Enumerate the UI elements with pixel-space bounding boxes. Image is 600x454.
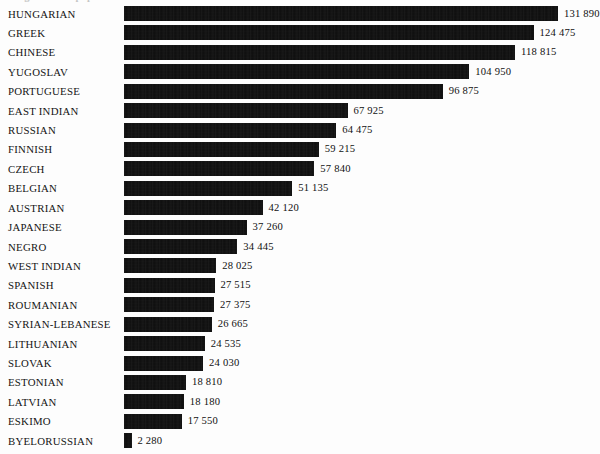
bar-fill — [124, 239, 237, 254]
bar-value-label: 57 840 — [320, 163, 350, 175]
bar-category-label: GREEK — [8, 27, 45, 39]
bar-value-label: 34 445 — [243, 241, 273, 253]
bar-row: LITHUANIAN24 535 — [0, 336, 600, 351]
bar-track — [124, 239, 594, 254]
bar-fill — [124, 200, 263, 215]
bar-value-label: 28 025 — [222, 260, 252, 272]
chart-title: Origins of the population — [8, 0, 126, 3]
bar-track — [124, 6, 594, 21]
bar-row: BYELORUSSIAN2 280 — [0, 433, 600, 448]
bar-track — [124, 84, 594, 99]
bar-track — [124, 258, 594, 273]
bar-value-label: 26 665 — [218, 318, 248, 330]
bar-category-label: SYRIAN-LEBANESE — [8, 318, 111, 330]
bar-row: BELGIAN51 135 — [0, 181, 600, 196]
bar-row: WEST INDIAN28 025 — [0, 258, 600, 273]
bar-value-label: 64 475 — [342, 124, 372, 136]
bar-fill — [124, 433, 132, 448]
bar-chart: Origins of the population HUNGARIAN131 8… — [0, 0, 600, 454]
bar-fill — [124, 123, 336, 138]
bar-row: ESTONIAN18 810 — [0, 375, 600, 390]
bar-row: SLOVAK24 030 — [0, 356, 600, 371]
bar-track — [124, 200, 594, 215]
bar-value-label: 17 550 — [188, 415, 218, 427]
bar-category-label: ESKIMO — [8, 415, 51, 427]
bar-row: SYRIAN-LEBANESE26 665 — [0, 317, 600, 332]
bar-value-label: 2 280 — [138, 435, 163, 447]
bar-value-label: 131 890 — [564, 8, 600, 20]
bar-value-label: 67 925 — [354, 105, 384, 117]
bar-row: GREEK124 475 — [0, 25, 600, 40]
bar-fill — [124, 181, 292, 196]
chart-plot-area: HUNGARIAN131 890GREEK124 475CHINESE118 8… — [0, 6, 600, 450]
bar-category-label: ROUMANIAN — [8, 299, 77, 311]
bar-row: ESKIMO17 550 — [0, 414, 600, 429]
bar-fill — [124, 45, 515, 60]
bar-value-label: 104 950 — [475, 66, 511, 78]
bar-category-label: NEGRO — [8, 241, 46, 253]
bar-fill — [124, 84, 443, 99]
bar-value-label: 18 810 — [192, 376, 222, 388]
bar-row: RUSSIAN64 475 — [0, 123, 600, 138]
bar-row: LATVIAN18 180 — [0, 394, 600, 409]
bar-track — [124, 142, 594, 157]
bar-value-label: 37 260 — [253, 221, 283, 233]
bar-track — [124, 317, 594, 332]
bar-category-label: RUSSIAN — [8, 124, 56, 136]
bar-category-label: SPANISH — [8, 279, 54, 291]
bar-fill — [124, 356, 203, 371]
bar-track — [124, 278, 594, 293]
bar-fill — [124, 414, 182, 429]
bar-fill — [124, 220, 247, 235]
bar-category-label: FINNISH — [8, 143, 52, 155]
bar-category-label: EAST INDIAN — [8, 105, 79, 117]
bar-row: JAPANESE37 260 — [0, 220, 600, 235]
bar-category-label: YUGOSLAV — [8, 66, 68, 78]
bar-value-label: 18 180 — [190, 396, 220, 408]
bar-fill — [124, 25, 534, 40]
bar-value-label: 124 475 — [540, 27, 576, 39]
bar-track — [124, 161, 594, 176]
bar-track — [124, 297, 594, 312]
bar-row: EAST INDIAN67 925 — [0, 103, 600, 118]
bar-track — [124, 433, 594, 448]
bar-track — [124, 336, 594, 351]
bar-category-label: SLOVAK — [8, 357, 52, 369]
bar-category-label: BYELORUSSIAN — [8, 435, 93, 447]
bar-fill — [124, 103, 348, 118]
bar-row: PORTUGUESE96 875 — [0, 84, 600, 99]
bar-category-label: AUSTRIAN — [8, 202, 65, 214]
bar-fill — [124, 297, 214, 312]
bar-fill — [124, 142, 319, 157]
bar-fill — [124, 375, 186, 390]
bar-track — [124, 181, 594, 196]
bar-fill — [124, 161, 314, 176]
bar-category-label: PORTUGUESE — [8, 85, 80, 97]
bar-value-label: 27 515 — [221, 279, 251, 291]
bar-row: CZECH57 840 — [0, 161, 600, 176]
bar-value-label: 27 375 — [220, 299, 250, 311]
bar-value-label: 96 875 — [449, 85, 479, 97]
bar-value-label: 118 815 — [521, 46, 556, 58]
bar-row: NEGRO34 445 — [0, 239, 600, 254]
bar-category-label: BELGIAN — [8, 182, 57, 194]
bar-fill — [124, 6, 558, 21]
bar-track — [124, 356, 594, 371]
bar-value-label: 42 120 — [269, 202, 299, 214]
bar-fill — [124, 258, 216, 273]
bar-row: CHINESE118 815 — [0, 45, 600, 60]
bar-track — [124, 64, 594, 79]
bar-category-label: WEST INDIAN — [8, 260, 81, 272]
bar-row: HUNGARIAN131 890 — [0, 6, 600, 21]
bar-category-label: ESTONIAN — [8, 376, 64, 388]
bar-category-label: HUNGARIAN — [8, 8, 76, 20]
bar-row: FINNISH59 215 — [0, 142, 600, 157]
bar-category-label: CHINESE — [8, 46, 55, 58]
bar-category-label: CZECH — [8, 163, 45, 175]
bar-row: YUGOSLAV104 950 — [0, 64, 600, 79]
bar-track — [124, 220, 594, 235]
bar-value-label: 24 030 — [209, 357, 239, 369]
bar-fill — [124, 278, 215, 293]
bar-category-label: LITHUANIAN — [8, 338, 78, 350]
bar-row: AUSTRIAN42 120 — [0, 200, 600, 215]
